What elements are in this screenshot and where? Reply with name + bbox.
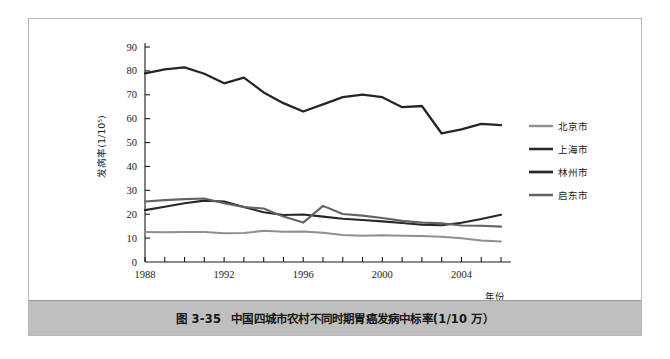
series-line-0 bbox=[145, 231, 501, 242]
x-tick-label: 2004 bbox=[451, 269, 473, 280]
figure-caption-bar: 图 3-35中国四城市农村不同时期胃癌发病中标率(1/10 万） bbox=[29, 300, 641, 335]
x-axis: 19881992199620002004 bbox=[135, 257, 512, 280]
series-line-1 bbox=[145, 201, 501, 226]
y-tick-label: 10 bbox=[127, 233, 138, 244]
figure-number: 图 3-35 bbox=[176, 312, 221, 326]
figure-title: 中国四城市农村不同时期胃癌发病中标率(1/10 万） bbox=[231, 312, 494, 326]
y-tick-label: 40 bbox=[127, 161, 138, 172]
figure-caption: 图 3-35中国四城市农村不同时期胃癌发病中标率(1/10 万） bbox=[176, 310, 494, 326]
y-tick-label: 60 bbox=[127, 113, 138, 124]
x-tick-label: 1996 bbox=[293, 269, 314, 280]
y-tick-label: 70 bbox=[127, 89, 138, 100]
y-axis: 0102030405060708090 bbox=[127, 42, 151, 268]
series-line-3 bbox=[145, 198, 501, 226]
y-axis-title: 发病率(1/10⁵) bbox=[96, 115, 107, 178]
y-tick-label: 50 bbox=[127, 137, 138, 148]
chart-legend: 北京市上海市林州市启东市 bbox=[529, 121, 588, 201]
legend-label-2: 林州市 bbox=[558, 167, 588, 178]
legend-label-3: 启东市 bbox=[558, 190, 588, 201]
chart-plot-area: 0102030405060708090 19881992199620002004… bbox=[29, 19, 643, 302]
y-tick-label: 30 bbox=[127, 185, 138, 196]
legend-label-0: 北京市 bbox=[558, 121, 588, 132]
figure-frame: 0102030405060708090 19881992199620002004… bbox=[28, 18, 642, 336]
line-chart: 0102030405060708090 19881992199620002004… bbox=[29, 19, 643, 302]
y-tick-label: 90 bbox=[127, 42, 138, 53]
x-tick-label: 1992 bbox=[214, 269, 235, 280]
series-lines bbox=[145, 67, 501, 241]
y-tick-label: 20 bbox=[127, 209, 138, 220]
legend-label-1: 上海市 bbox=[558, 144, 588, 155]
x-tick-label: 1988 bbox=[135, 269, 156, 280]
series-line-2 bbox=[145, 67, 501, 133]
x-tick-label: 2000 bbox=[372, 269, 393, 280]
y-tick-label: 80 bbox=[127, 65, 138, 76]
y-tick-label: 0 bbox=[132, 257, 137, 268]
